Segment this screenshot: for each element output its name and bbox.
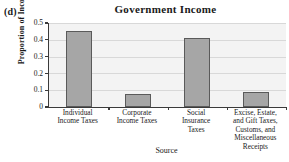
y-axis-ticks: 00.10.20.30.40.5 [0, 23, 48, 107]
y-tick-label: 0.4 [34, 36, 45, 44]
y-tick-label: 0.1 [34, 86, 45, 94]
y-tick-label: 0.5 [34, 19, 45, 27]
bar [243, 92, 269, 107]
y-tick: 0.2 [34, 68, 48, 78]
x-category-label: CorporateIncome Taxes [107, 109, 166, 126]
x-category-label: IndividualIncome Taxes [48, 109, 107, 126]
y-tick: 0.5 [34, 18, 48, 28]
bar [66, 31, 92, 107]
panel-label: (d) [4, 6, 17, 17]
plot-area [48, 23, 286, 108]
x-category-label-line: Taxes [167, 126, 226, 134]
x-axis-category-labels: IndividualIncome TaxesCorporateIncome Ta… [48, 109, 285, 151]
gridline [49, 23, 286, 24]
bar [125, 94, 151, 107]
y-tick-label: 0.2 [34, 70, 45, 78]
bar [184, 38, 210, 107]
figure-panel: (d) Government Income Proportion of Inco… [0, 0, 289, 162]
x-category-label-line: Income Taxes [48, 117, 107, 125]
y-tick: 0.1 [34, 85, 48, 95]
x-category-label: Excise, Estate,and Gift Taxes,Customs, a… [226, 109, 285, 151]
x-tick-mark [286, 107, 287, 110]
x-category-label: SocialInsuranceTaxes [167, 109, 226, 134]
y-tick: 0.3 [34, 52, 48, 62]
y-tick-label: 0.3 [34, 53, 45, 61]
chart-title: Government Income [46, 3, 285, 15]
y-tick: 0.4 [34, 35, 48, 45]
x-axis-title: Source [48, 146, 285, 155]
y-tick: 0 [39, 102, 48, 112]
x-category-label-line: Income Taxes [107, 117, 166, 125]
